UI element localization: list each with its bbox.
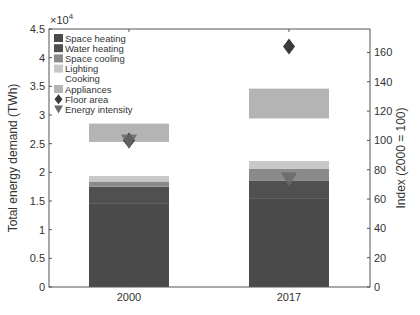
bar-segment-space-heating-2017	[249, 198, 329, 287]
legend-swatch	[54, 34, 63, 42]
right-tick-label: 0	[374, 281, 380, 293]
right-axis: 020406080100120140160	[367, 46, 392, 293]
right-tick-label: 160	[374, 46, 392, 58]
bar-segment-water-heating-2000	[89, 187, 169, 204]
right-tick-label: 100	[374, 134, 392, 146]
left-tick-label: 0.5	[30, 252, 45, 264]
x-tick-label: 2017	[277, 291, 301, 303]
right-tick-label: 120	[374, 105, 392, 117]
legend-swatch	[54, 44, 63, 52]
right-tick-label: 140	[374, 76, 392, 88]
right-axis-title: Index (2000 = 100)	[394, 107, 408, 208]
left-tick-label: 1.5	[30, 195, 45, 207]
legend-swatch	[54, 85, 63, 93]
bar-segment-lighting-2017	[249, 161, 329, 169]
right-tick-label: 80	[374, 164, 386, 176]
left-axis-multiplier: ×104	[50, 12, 74, 26]
floor-area-marker-2017	[283, 39, 295, 55]
bar-segment-appliances-2017	[249, 89, 329, 119]
left-tick-label: 4	[39, 52, 45, 64]
x-tick-label: 2000	[117, 291, 141, 303]
left-tick-label: 3.5	[30, 80, 45, 92]
bars-layer	[89, 89, 329, 287]
left-tick-label: 2.5	[30, 138, 45, 150]
legend-label: Energy intensity	[65, 104, 133, 115]
energy-demand-chart: 00.511.522.533.544.5 0204060801001201401…	[0, 0, 420, 315]
right-tick-label: 20	[374, 252, 386, 264]
left-tick-label: 0	[39, 281, 45, 293]
legend-item-energy-intensity: Energy intensity	[54, 104, 133, 115]
bar-segment-cooking-2017	[249, 118, 329, 160]
legend-swatch	[54, 54, 63, 62]
bar-segment-space-cooling-2000	[89, 182, 169, 187]
left-tick-label: 2	[39, 166, 45, 178]
bar-segment-lighting-2000	[89, 176, 169, 182]
left-tick-label: 1	[39, 224, 45, 236]
legend-swatch	[54, 65, 63, 73]
left-tick-label: 3	[39, 109, 45, 121]
legend: Space heatingWater heatingSpace coolingL…	[54, 33, 133, 115]
right-tick-label: 40	[374, 222, 386, 234]
left-axis-title: Total energy demand (TWh)	[6, 84, 20, 233]
legend-diamond-icon	[55, 94, 63, 104]
left-tick-label: 4.5	[30, 23, 45, 35]
bar-segment-space-heating-2000	[89, 204, 169, 287]
right-tick-label: 60	[374, 193, 386, 205]
legend-triangle-icon	[54, 105, 63, 113]
